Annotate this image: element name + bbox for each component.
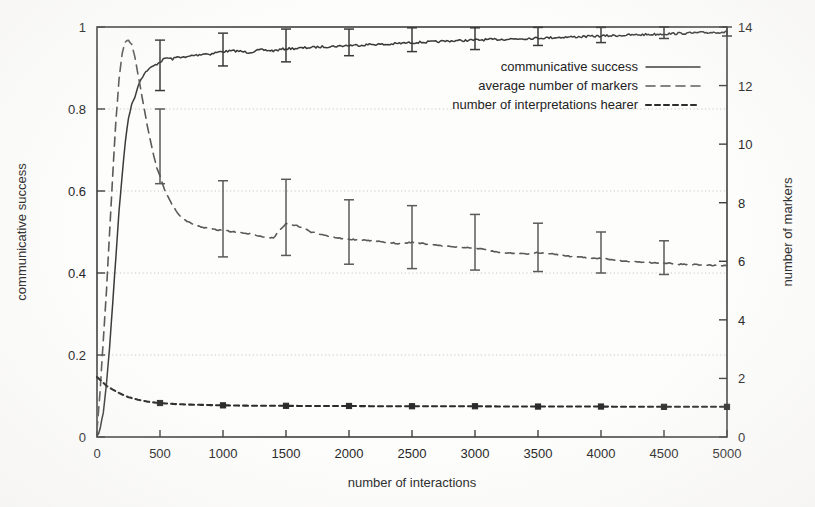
x-tick-label: 0: [93, 446, 100, 461]
chart-legend: communicative successaverage number of m…: [452, 59, 700, 112]
chart-plot-area: 0500100015002000250030003500400045005000…: [0, 0, 815, 507]
x-tick-label: 3000: [461, 446, 490, 461]
errorbar: [344, 200, 354, 264]
y-axis-left-label: communicative success: [14, 163, 29, 301]
y2-tick-label: 14: [738, 20, 752, 35]
y-axis-right-ticks: 02468101214: [719, 20, 752, 445]
data-point-marker: [472, 404, 477, 409]
y2-tick-label: 0: [738, 430, 745, 445]
data-point-marker: [409, 404, 414, 409]
x-tick-label: 1500: [272, 446, 301, 461]
errorbar: [659, 241, 669, 275]
data-point-marker: [157, 400, 162, 405]
y-tick-label: 0.8: [68, 102, 86, 117]
x-tick-label: 500: [149, 446, 171, 461]
data-point-marker: [724, 404, 729, 409]
y2-tick-label: 6: [738, 254, 745, 269]
data-point-marker: [598, 404, 603, 409]
y-tick-label: 0: [79, 430, 86, 445]
data-point-marker: [535, 404, 540, 409]
x-tick-label: 4500: [650, 446, 679, 461]
errorbar: [470, 214, 480, 270]
x-tick-label: 2000: [335, 446, 364, 461]
errorbar: [155, 109, 165, 184]
y-tick-label: 1: [79, 20, 86, 35]
y-tick-label: 0.2: [68, 348, 86, 363]
y2-tick-label: 12: [738, 79, 752, 94]
y2-tick-label: 8: [738, 196, 745, 211]
x-axis-label: number of interactions: [348, 475, 477, 490]
errorbar: [344, 29, 354, 56]
data-point-marker: [220, 403, 225, 408]
series-line-dotted: [97, 377, 727, 407]
y-tick-label: 0.4: [68, 266, 86, 281]
data-point-marker: [283, 403, 288, 408]
errorbar: [281, 179, 291, 255]
x-tick-label: 2500: [398, 446, 427, 461]
x-tick-label: 1000: [209, 446, 238, 461]
errorbar: [722, 27, 732, 36]
errorbar: [407, 28, 417, 52]
errorbar: [281, 29, 291, 62]
x-tick-label: 3500: [524, 446, 553, 461]
y2-tick-label: 10: [738, 137, 752, 152]
y2-tick-label: 2: [738, 371, 745, 386]
errorbar: [470, 28, 480, 50]
y-tick-label: 0.6: [68, 184, 86, 199]
y2-tick-label: 4: [738, 313, 745, 328]
errorbar: [407, 206, 417, 269]
data-point-marker: [661, 404, 666, 409]
y-axis-right-label: number of markers: [780, 177, 795, 287]
y-axis-left-ticks: 00.20.40.60.81: [68, 20, 105, 445]
legend-label-2: number of interpretations hearer: [452, 97, 638, 112]
errorbar-layer: [155, 27, 732, 274]
x-tick-label: 4000: [587, 446, 616, 461]
errorbar: [659, 27, 669, 38]
errorbar: [533, 223, 543, 271]
legend-label-1: average number of markers: [478, 78, 638, 93]
errorbar: [218, 181, 228, 257]
legend-label-0: communicative success: [501, 59, 639, 74]
errorbar: [596, 232, 606, 273]
errorbar: [533, 27, 543, 45]
errorbar: [218, 33, 228, 66]
data-point-marker: [346, 403, 351, 408]
x-axis-ticks: 0500100015002000250030003500400045005000: [93, 430, 741, 461]
chart-figure: 0500100015002000250030003500400045005000…: [0, 0, 815, 507]
x-tick-label: 5000: [713, 446, 742, 461]
